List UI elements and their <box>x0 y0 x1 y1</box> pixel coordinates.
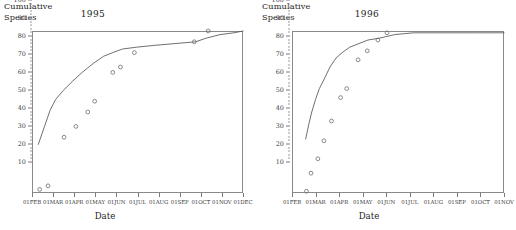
x-tick-label: 01OCT <box>471 199 490 205</box>
y-tick-label: 10 <box>18 158 26 166</box>
x-tick-label: 01MAY <box>86 199 105 205</box>
data-point-marker <box>119 65 123 69</box>
x-tick-mark <box>116 193 117 197</box>
y-tick-label: 30 <box>18 122 26 130</box>
data-point-marker <box>86 110 90 114</box>
fitted-curve-1996 <box>306 33 504 139</box>
data-point-marker <box>62 135 66 139</box>
x-tick-label: 01JUN <box>107 199 125 205</box>
y-tick-mark <box>286 36 290 37</box>
y-tick-label: 60 <box>18 68 26 76</box>
y-tick-minor-mark <box>288 46 290 47</box>
data-point-marker <box>365 49 369 53</box>
x-tick-mark <box>504 193 505 197</box>
y-tick-mark <box>286 162 290 163</box>
y-tick-minor-mark <box>288 129 290 130</box>
x-tick-mark <box>138 193 139 197</box>
y-tick-minor-mark <box>288 151 290 152</box>
x-tick-mark <box>159 193 160 197</box>
y-tick-label: 100 <box>272 0 285 4</box>
y-tick-mark <box>286 0 290 1</box>
x-tick-label: 01NOV <box>212 199 232 205</box>
data-point-marker <box>206 29 210 33</box>
x-tick-mark <box>457 193 458 197</box>
x-tick-label: 01DEC <box>234 199 253 205</box>
plot-area-1996 <box>292 31 504 193</box>
y-tick-minor-mark <box>288 3 290 4</box>
y-tick-minor-mark <box>288 115 290 116</box>
y-tick-minor-mark <box>288 118 290 119</box>
x-tick-mark <box>53 193 54 197</box>
y-tick-minor-mark <box>288 147 290 148</box>
y-tick-minor-mark <box>288 57 290 58</box>
data-point-marker <box>74 125 78 129</box>
y-tick-mark <box>286 144 290 145</box>
y-tick-minor-mark <box>288 154 290 155</box>
y-tick-mark <box>286 18 290 19</box>
y-tick-label: 90 <box>18 14 26 22</box>
x-tick-mark <box>180 193 181 197</box>
x-tick-mark <box>74 193 75 197</box>
data-point-marker <box>322 139 326 143</box>
y-tick-minor-mark <box>288 86 290 87</box>
y-tick-minor-mark <box>288 39 290 40</box>
data-layer-1995 <box>32 31 243 193</box>
x-tick-mark <box>410 193 411 197</box>
y-tick-minor-mark <box>288 21 290 22</box>
y-tick-mark <box>286 54 290 55</box>
y-tick-label: 50 <box>276 86 284 94</box>
chart-panel-1995: Cumulative Species 1995 1020304050607080… <box>0 0 258 230</box>
y-tick-mark <box>286 126 290 127</box>
data-point-marker <box>339 96 343 100</box>
y-tick-mark <box>28 0 32 1</box>
x-tick-mark <box>95 193 96 197</box>
y-tick-minor-mark <box>288 140 290 141</box>
data-point-marker <box>46 184 50 188</box>
y-tick-minor-mark <box>288 82 290 83</box>
x-tick-label: 01SEP <box>171 199 189 205</box>
y-tick-minor-mark <box>288 136 290 137</box>
y-tick-minor-mark <box>30 28 32 29</box>
y-tick-minor-mark <box>288 50 290 51</box>
x-tick-label: 01MAR <box>43 199 63 205</box>
x-tick-mark <box>222 193 223 197</box>
y-tick-minor-mark <box>288 64 290 65</box>
y-tick-minor-mark <box>288 75 290 76</box>
x-tick-label: 01MAR <box>306 199 326 205</box>
x-tick-mark <box>363 193 364 197</box>
x-tick-label: 01MAY <box>353 199 372 205</box>
chart-panel-1996: Cumulative Species 1996 1020304050607080… <box>258 0 516 230</box>
x-tick-label: 01NOV <box>494 199 514 205</box>
x-tick-mark <box>316 193 317 197</box>
y-axis-1995: 102030405060708090100 <box>0 0 32 162</box>
y-tick-minor-mark <box>288 61 290 62</box>
y-tick-mark <box>286 108 290 109</box>
y-tick-minor-mark <box>30 25 32 26</box>
x-tick-label: 01FEB <box>23 199 41 205</box>
y-tick-label: 30 <box>276 122 284 130</box>
x-tick-label: 01OCT <box>191 199 210 205</box>
y-tick-minor-mark <box>288 68 290 69</box>
y-tick-minor-mark <box>288 10 290 11</box>
x-tick-mark <box>339 193 340 197</box>
y-tick-label: 70 <box>18 50 26 58</box>
x-tick-mark <box>292 193 293 197</box>
y-tick-minor-mark <box>30 3 32 4</box>
y-tick-minor-mark <box>288 14 290 15</box>
y-tick-minor-mark <box>288 93 290 94</box>
y-tick-minor-mark <box>288 158 290 159</box>
y-tick-label: 50 <box>18 86 26 94</box>
y-tick-minor-mark <box>288 104 290 105</box>
y-tick-minor-mark <box>288 7 290 8</box>
x-tick-label: 01JUN <box>377 199 395 205</box>
x-tick-mark <box>480 193 481 197</box>
y-tick-minor-mark <box>30 10 32 11</box>
x-tick-label: 01FEB <box>283 199 301 205</box>
data-point-marker <box>132 51 136 55</box>
y-tick-label: 100 <box>14 0 27 4</box>
data-point-marker <box>385 31 389 35</box>
y-tick-minor-mark <box>288 100 290 101</box>
y-tick-label: 10 <box>276 158 284 166</box>
y-tick-minor-mark <box>30 7 32 8</box>
x-tick-mark <box>243 193 244 197</box>
